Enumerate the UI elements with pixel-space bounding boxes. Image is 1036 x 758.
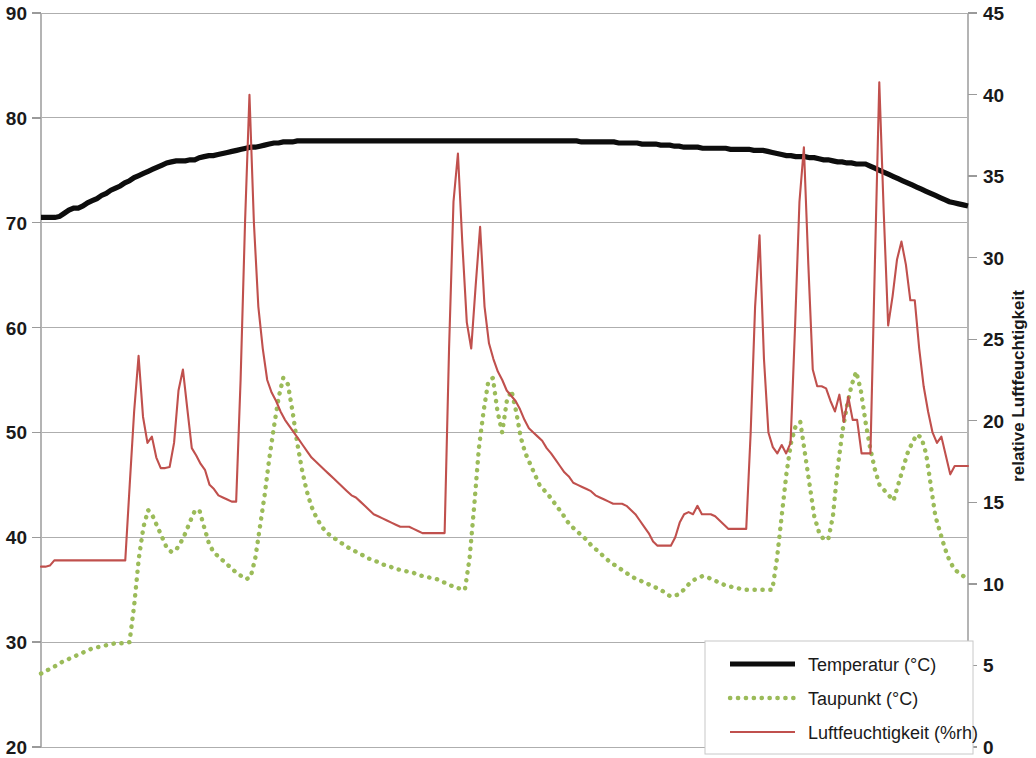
left-tick-label: 60 [6,318,27,339]
legend-item-label: Luftfeuchtigkeit (%rh) [808,723,978,743]
left-tick-label: 40 [6,527,27,548]
right-tick-label: 15 [983,492,1005,513]
left-tick-label: 80 [6,108,27,129]
right-tick-label: 35 [983,166,1005,187]
series-line-taupunkt [41,372,968,674]
left-tick-label: 90 [6,3,27,24]
right-tick-label: 20 [983,411,1004,432]
right-tick-label: 40 [983,85,1004,106]
left-tick-label: 70 [6,213,27,234]
right-tick-label: 5 [983,655,994,676]
plot-series-group [41,82,968,673]
right-tick-label: 30 [983,248,1004,269]
right-tick-label: 45 [983,3,1005,24]
left-tick-label: 50 [6,422,27,443]
right-axis-title: relative Luftfeuchtigkeit [1009,290,1028,482]
left-tick-label: 20 [6,737,27,758]
right-tick-label: 25 [983,329,1005,350]
legend-item-label: Temperatur (°C) [808,655,936,675]
legend-item-label: Taupunkt (°C) [808,689,918,709]
series-line-luftfeuchtigkeit [41,82,968,566]
series-line-temperatur [41,141,968,218]
chart-container: 9080706050403020 454035302520151050 rela… [0,0,1036,758]
right-tick-label: 0 [983,737,994,758]
right-axis-title-label: relative Luftfeuchtigkeit [1009,290,1028,482]
left-axis-tick-labels: 9080706050403020 [6,3,41,758]
line-chart: 9080706050403020 454035302520151050 rela… [0,0,1036,758]
right-tick-label: 10 [983,574,1004,595]
chart-legend: Temperatur (°C)Taupunkt (°C)Luftfeuchtig… [705,641,978,754]
left-tick-label: 30 [6,632,27,653]
